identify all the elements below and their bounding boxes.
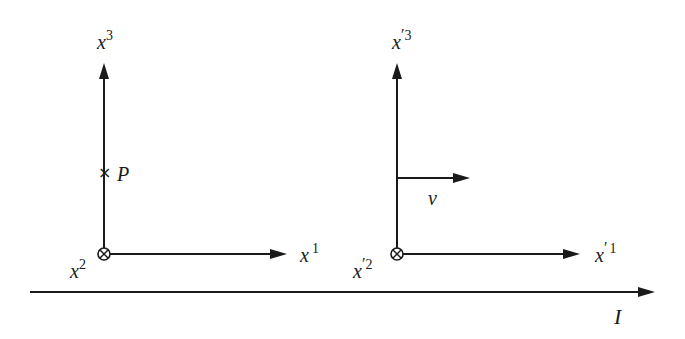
- reference-frames-diagram: x3 x1 x2 × P v x′3 x′1 x′2 I: [0, 0, 685, 339]
- right-x1-label: x′1: [594, 239, 616, 266]
- velocity-arrowhead-icon: [453, 173, 470, 183]
- velocity-label: v: [428, 187, 437, 209]
- left-x3-arrowhead-icon: [99, 63, 109, 79]
- left-frame: x3 x1 x2 × P: [69, 28, 319, 282]
- left-x1-label: x1: [299, 241, 319, 266]
- inertial-arrowhead-icon: [638, 287, 655, 297]
- point-p-marker-icon: ×: [98, 163, 111, 182]
- left-x2-label: x2: [69, 257, 86, 282]
- point-p-label: P: [116, 163, 129, 185]
- right-frame: v x′3 x′1 x′2: [352, 26, 616, 282]
- inertial-axis: I: [30, 287, 655, 329]
- right-x1-arrowhead-icon: [563, 249, 580, 259]
- right-x3-label: x′3: [391, 26, 411, 53]
- left-x2-otimes-icon: [98, 248, 110, 260]
- left-x1-arrowhead-icon: [270, 249, 287, 259]
- right-x2-label: x′2: [352, 255, 372, 282]
- left-x3-label: x3: [96, 28, 113, 53]
- right-x2-otimes-icon: [391, 248, 403, 260]
- inertial-axis-label: I: [613, 304, 623, 329]
- right-x3-arrowhead-icon: [392, 63, 402, 79]
